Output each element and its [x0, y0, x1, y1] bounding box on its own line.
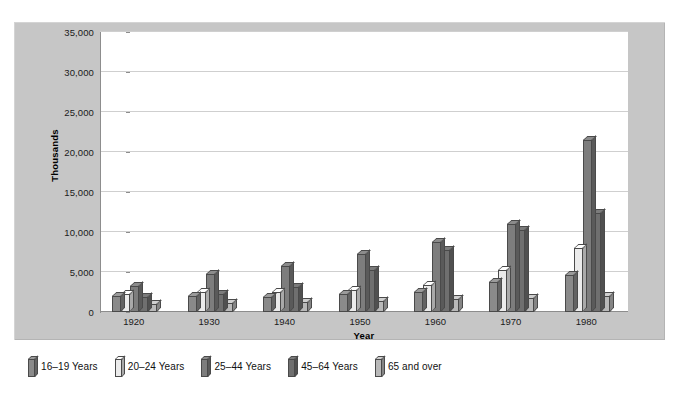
- bar-side-face: [366, 249, 370, 312]
- y-tick-mark: [126, 272, 130, 273]
- chart-screenshot: 05,00010,00015,00020,00025,00030,00035,0…: [0, 0, 679, 400]
- y-tick-label: 25,000: [64, 107, 94, 118]
- legend-swatch-icon: [28, 356, 35, 377]
- x-tick-label: 1920: [123, 316, 144, 327]
- bar-side-face: [498, 277, 502, 312]
- legend-swatch-front: [288, 359, 295, 377]
- bar: [188, 296, 197, 312]
- bar-side-face: [516, 219, 520, 312]
- bar-side-face: [507, 266, 511, 312]
- bar-side-face: [290, 262, 294, 312]
- bar-front-face: [565, 275, 574, 312]
- gridline: [100, 191, 628, 192]
- legend-label: 65 and over: [388, 361, 442, 372]
- bar-side-face: [525, 225, 529, 312]
- y-tick-label: 20,000: [64, 147, 94, 158]
- bar: [489, 282, 498, 312]
- bar-side-face: [450, 245, 454, 312]
- gridline: [100, 31, 628, 32]
- legend-item: 45–64 Years: [288, 356, 358, 377]
- bar: [414, 292, 423, 312]
- gridline: [100, 71, 628, 72]
- bar-front-face: [263, 297, 272, 312]
- y-tick-mark: [126, 112, 130, 113]
- y-tick-label: 35,000: [64, 27, 94, 38]
- bar-side-face: [299, 282, 303, 312]
- x-tick-label: 1950: [349, 316, 370, 327]
- bar-front-face: [489, 282, 498, 312]
- bar-side-face: [592, 135, 596, 312]
- x-tick-label: 1980: [576, 316, 597, 327]
- legend-swatch-front: [28, 359, 35, 377]
- legend-swatch-icon: [375, 356, 382, 377]
- y-tick-label: 30,000: [64, 67, 94, 78]
- bar-side-face: [432, 280, 436, 312]
- bar-side-face: [583, 243, 587, 312]
- legend-swatch-icon: [288, 356, 295, 377]
- legend-label: 16–19 Years: [41, 361, 98, 372]
- y-tick-mark: [126, 32, 130, 33]
- x-tick-label: 1960: [425, 316, 446, 327]
- y-axis-line: [100, 32, 101, 313]
- bar-side-face: [139, 281, 143, 312]
- legend-item: 20–24 Years: [115, 356, 185, 377]
- bar: [565, 275, 574, 312]
- bar-front-face: [112, 296, 121, 312]
- legend-label: 45–64 Years: [301, 361, 358, 372]
- bar-side-face: [601, 208, 605, 312]
- y-tick-label: 10,000: [64, 227, 94, 238]
- y-tick-mark: [126, 192, 130, 193]
- x-axis-title: Year: [100, 330, 628, 341]
- bar: [112, 296, 121, 312]
- y-tick-label: 0: [89, 307, 94, 318]
- chart-legend: 16–19 Years20–24 Years25–44 Years45–64 Y…: [28, 352, 459, 380]
- y-tick-label: 15,000: [64, 187, 94, 198]
- plot-area: [100, 32, 628, 312]
- y-tick-label: 5,000: [70, 267, 94, 278]
- legend-swatch-front: [115, 359, 122, 377]
- legend-label: 20–24 Years: [128, 361, 185, 372]
- legend-item: 25–44 Years: [201, 356, 271, 377]
- y-axis-ticks: 05,00010,00015,00020,00025,00030,00035,0…: [30, 32, 94, 312]
- y-tick-mark: [126, 72, 130, 73]
- bar: [263, 297, 272, 312]
- gridline: [100, 151, 628, 152]
- y-tick-mark: [126, 152, 130, 153]
- bar: [339, 294, 348, 312]
- legend-swatch-front: [375, 359, 382, 377]
- legend-item: 16–19 Years: [28, 356, 98, 377]
- bar-side-face: [215, 269, 219, 312]
- legend-swatch-icon: [201, 356, 208, 377]
- legend-label: 25–44 Years: [214, 361, 271, 372]
- bar-front-face: [339, 294, 348, 312]
- bar-front-face: [188, 296, 197, 312]
- y-tick-mark: [126, 232, 130, 233]
- gridline: [100, 111, 628, 112]
- gridline: [100, 231, 628, 232]
- legend-swatch-front: [201, 359, 208, 377]
- x-tick-label: 1970: [500, 316, 521, 327]
- bar-front-face: [414, 292, 423, 312]
- legend-swatch-icon: [115, 356, 122, 377]
- bar-side-face: [574, 270, 578, 312]
- x-tick-label: 1930: [199, 316, 220, 327]
- y-axis-title: Thousands: [49, 96, 60, 216]
- bar-side-face: [441, 237, 445, 312]
- x-tick-label: 1940: [274, 316, 295, 327]
- bar-side-face: [375, 265, 379, 312]
- legend-item: 65 and over: [375, 356, 442, 377]
